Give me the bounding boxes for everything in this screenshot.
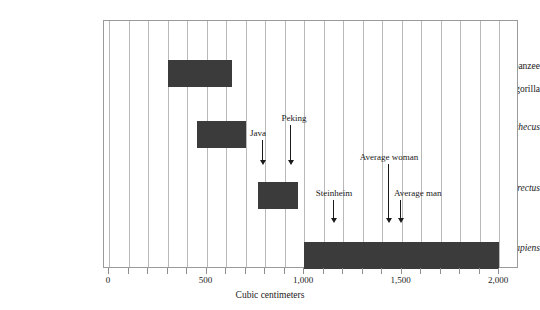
x-tick [303,268,304,274]
bar-homo-erectus [258,182,298,209]
annotation-stem-java [262,140,263,161]
annotation-arrow-average-woman [386,218,392,223]
gridline [402,21,403,267]
x-tick-label: 1,500 [390,275,410,285]
annotation-label-steinheim: Steinheim [316,188,353,198]
x-tick [323,268,324,274]
bar-homo-sapiens [304,242,499,269]
gridline [265,21,266,267]
gridline [363,21,364,267]
annotation-label-peking: Peking [281,113,306,123]
annotation-label-average-woman: Average woman [360,152,419,162]
gridline [168,21,169,267]
bar-chimpanzee-and-gorilla [168,60,232,87]
x-tick [128,268,129,274]
annotation-stem-average-man [400,200,401,219]
plot-area [103,20,518,268]
x-tick [284,268,285,274]
gridline [382,21,383,267]
x-tick [186,268,187,274]
x-tick [167,268,168,274]
x-tick [264,268,265,274]
x-tick [147,268,148,274]
annotation-arrow-peking [288,160,294,165]
gridline [148,21,149,267]
gridline [499,21,500,267]
x-tick [440,268,441,274]
chart-figure: Chimpanzee and gorilla Australopithecus … [0,0,540,310]
annotation-arrow-java [260,160,266,165]
x-tick [225,268,226,274]
gridline [460,21,461,267]
x-axis-title: Cubic centimeters [0,290,540,300]
annotation-stem-average-woman [388,164,389,219]
annotation-label-average-man: Average man [394,188,442,198]
annotation-arrow-steinheim [331,218,337,223]
annotation-stem-steinheim [333,200,334,219]
gridline [421,21,422,267]
x-tick-label: 500 [199,275,213,285]
gridline [129,21,130,267]
x-tick-label: 1,000 [293,275,313,285]
annotation-stem-peking [290,125,291,161]
gridline [246,21,247,267]
x-tick [479,268,480,274]
x-tick-label: 2,000 [488,275,508,285]
x-tick [362,268,363,274]
annotation-label-java: Java [250,128,266,138]
gridline [304,21,305,267]
gridline [109,21,110,267]
x-tick-label: 0 [106,275,111,285]
gridline [324,21,325,267]
x-tick [459,268,460,274]
x-tick [245,268,246,274]
x-tick [206,268,207,274]
gridline [187,21,188,267]
gridline [441,21,442,267]
bar-australopithecus [197,121,246,148]
x-tick [401,268,402,274]
gridline [480,21,481,267]
x-tick [108,268,109,274]
gridline [285,21,286,267]
x-tick [342,268,343,274]
x-tick [420,268,421,274]
gridline [343,21,344,267]
x-tick [498,268,499,274]
annotation-arrow-average-man [398,218,404,223]
x-tick [381,268,382,274]
